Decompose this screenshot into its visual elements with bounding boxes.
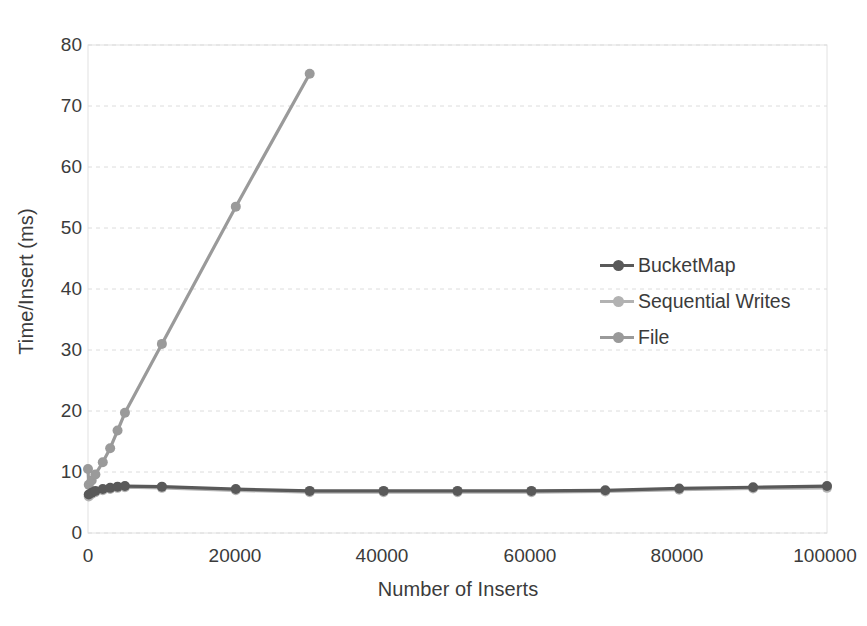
ytick-label: 0 [22,522,82,544]
xtick-label: 40000 [322,545,442,567]
legend-marker-icon [600,330,634,344]
legend-dot [613,296,624,307]
ytick-label: 70 [22,95,82,117]
legend-label: File [638,326,669,349]
legend-dot [613,260,624,271]
legend-marker-icon [600,258,634,272]
legend-marker-icon [600,294,634,308]
xtick-label: 60000 [470,545,590,567]
xtick-label: 80000 [617,545,737,567]
legend-dot [613,332,624,343]
chart-figure: 80 70 60 50 40 30 20 10 0 0 20000 40000 … [0,0,867,626]
legend-item-file[interactable]: File [600,319,850,355]
xtick-label: 0 [28,545,148,567]
xtick-label: 20000 [175,545,295,567]
x-axis-title: Number of Inserts [88,578,828,601]
chart-legend: BucketMap Sequential Writes File [600,247,850,355]
legend-label: Sequential Writes [638,290,790,313]
legend-item-bucketmap[interactable]: BucketMap [600,247,850,283]
legend-item-sequential-writes[interactable]: Sequential Writes [600,283,850,319]
ytick-label: 10 [22,461,82,483]
legend-label: BucketMap [638,254,736,277]
ytick-label: 80 [22,34,82,56]
xtick-label: 100000 [765,545,867,567]
y-axis-title: Time/Insert (ms) [15,152,38,412]
